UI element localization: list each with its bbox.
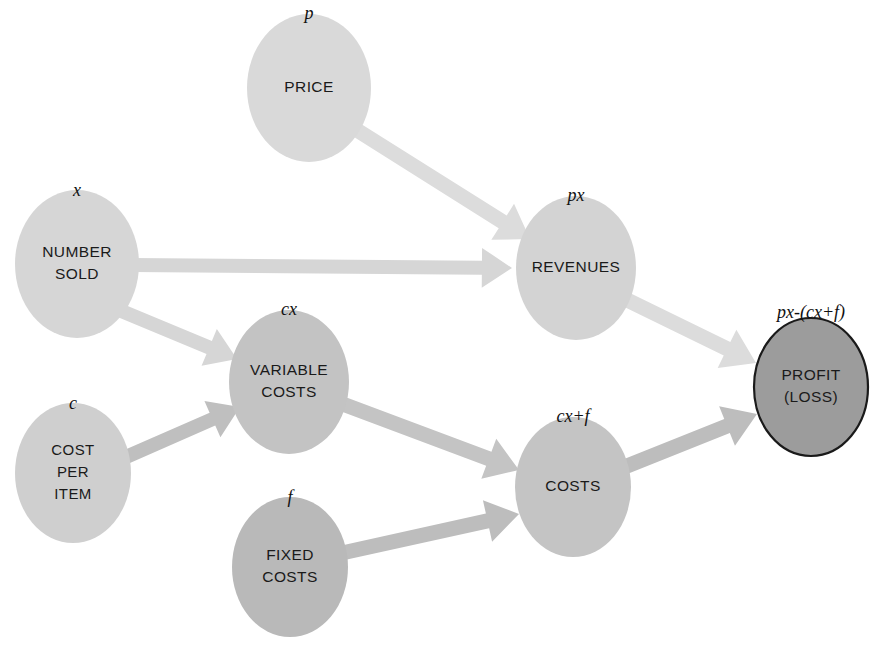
arrow-cost-per-item-to-variable-costs (123, 401, 240, 464)
node-label-line: ITEM (54, 485, 91, 502)
node-label-line: NUMBER (42, 243, 112, 260)
arrow-price-to-revenues (348, 121, 530, 240)
edges-layer (116, 121, 757, 561)
arrow-number-sold-to-variable-costs (116, 304, 237, 366)
node-label-line: COST (51, 441, 94, 458)
diagram-canvas: PRICEpNUMBERSOLDxREVENUESpxVARIABLECOSTS… (0, 0, 891, 646)
node-price[interactable]: PRICEp (247, 3, 371, 162)
arrow-costs-to-profit-loss (619, 406, 757, 475)
variable-label-revenues: px (566, 185, 585, 205)
node-number-sold[interactable]: NUMBERSOLDx (15, 180, 139, 338)
arrow-number-sold-to-revenues (132, 248, 512, 288)
node-profit-loss[interactable]: PROFIT(LOSS)px-(cx+f) (754, 302, 868, 456)
node-shape-fixed-costs (232, 497, 348, 637)
variable-label-profit-loss: px-(cx+f) (775, 302, 845, 323)
node-label-line: COSTS (545, 477, 600, 494)
influence-diagram: PRICEpNUMBERSOLDxREVENUESpxVARIABLECOSTS… (0, 0, 891, 646)
variable-label-costs: cx+f (556, 406, 592, 426)
arrow-variable-costs-to-costs (337, 396, 519, 479)
node-label-line: VARIABLE (250, 361, 328, 378)
node-label-price: PRICE (284, 78, 333, 95)
variable-label-price: p (303, 3, 314, 23)
node-label-cost-per-item: COSTPERITEM (51, 441, 94, 502)
node-label-line: REVENUES (532, 258, 620, 275)
node-label-line: (LOSS) (784, 388, 838, 405)
arrow-fixed-costs-to-costs (340, 500, 519, 560)
node-label-line: SOLD (55, 265, 99, 282)
node-costs[interactable]: COSTScx+f (515, 406, 631, 557)
node-shape-number-sold (15, 190, 139, 338)
node-fixed-costs[interactable]: FIXEDCOSTSf (232, 487, 348, 637)
node-label-costs: COSTS (545, 477, 600, 494)
node-cost-per-item[interactable]: COSTPERITEMc (15, 393, 131, 543)
node-shape-profit-loss (754, 318, 868, 456)
node-revenues[interactable]: REVENUESpx (516, 185, 636, 340)
variable-label-cost-per-item: c (69, 393, 77, 413)
node-label-revenues: REVENUES (532, 258, 620, 275)
node-label-line: COSTS (262, 568, 317, 585)
node-label-line: PRICE (284, 78, 333, 95)
arrow-revenues-to-profit-loss (618, 290, 756, 368)
variable-label-variable-costs: cx (281, 299, 297, 319)
variable-label-number-sold: x (72, 180, 81, 200)
node-label-line: COSTS (261, 383, 316, 400)
node-shape-variable-costs (229, 310, 349, 454)
node-label-line: PER (57, 463, 89, 480)
node-variable-costs[interactable]: VARIABLECOSTScx (229, 299, 349, 454)
node-label-line: PROFIT (781, 366, 840, 383)
node-label-line: FIXED (266, 546, 314, 563)
